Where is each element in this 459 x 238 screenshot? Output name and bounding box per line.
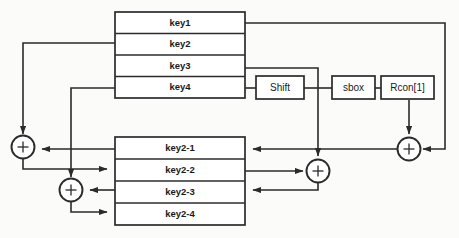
sbox-box-label: sbox xyxy=(343,82,364,93)
rcon-box: Rcon[1] xyxy=(381,76,434,99)
xor-node-3 xyxy=(307,160,330,183)
wire-xor2-to-key2-4 xyxy=(71,202,107,212)
output-row-key2-4-label: key2-4 xyxy=(165,208,195,219)
output-row-key2-1-label: key2-1 xyxy=(165,142,195,153)
shift-box: Shift xyxy=(256,76,304,99)
wire-xor1-to-key2-2 xyxy=(23,159,107,169)
output-row-key2-3-label: key2-3 xyxy=(165,186,195,197)
xor-node-4 xyxy=(398,138,421,161)
shift-box-label: Shift xyxy=(270,82,290,93)
input-key-table: key1 key2 key3 key4 xyxy=(115,12,245,98)
wire-xor3-to-key2-3 xyxy=(253,183,318,190)
input-row-key4-label: key4 xyxy=(169,81,191,92)
xor-node-1 xyxy=(12,136,35,159)
input-row-key2-label: key2 xyxy=(169,38,190,49)
rcon-box-label: Rcon[1] xyxy=(390,82,425,93)
diagram-canvas: key1 key2 key3 key4 key2-1 key2-2 key2-3… xyxy=(0,0,459,238)
input-row-key1-label: key1 xyxy=(169,17,191,28)
sbox-box: sbox xyxy=(332,76,375,99)
xor-node-2 xyxy=(60,179,83,202)
input-row-key3-label: key3 xyxy=(169,60,190,71)
output-row-key2-2-label: key2-2 xyxy=(165,164,195,175)
key-expansion-diagram: key1 key2 key3 key4 key2-1 key2-2 key2-3… xyxy=(0,0,459,238)
output-key-table: key2-1 key2-2 key2-3 key2-4 xyxy=(115,137,245,225)
wire-key4-to-xor2 xyxy=(71,88,115,177)
